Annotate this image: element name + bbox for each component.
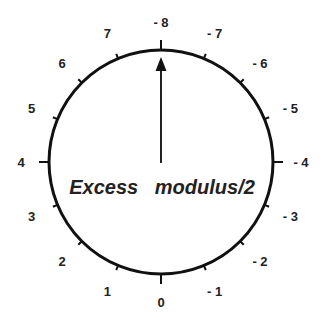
tick-label: 0	[157, 295, 164, 310]
tick-label: 3	[28, 209, 35, 224]
tick-label: - 7	[207, 26, 222, 41]
tick-label-top: - 8	[153, 15, 168, 30]
tick-mark	[240, 79, 244, 83]
tick-label: 2	[58, 254, 65, 269]
tick-mark	[78, 79, 82, 83]
tick-label: 5	[28, 101, 35, 116]
tick-label: - 5	[283, 101, 298, 116]
tick-label: 6	[58, 56, 65, 71]
tick-label: - 4	[293, 155, 309, 170]
dial-caption: Excess modulus/2	[69, 176, 255, 198]
tick-label: 1	[104, 284, 111, 299]
excess-modulus-dial: 01234567- 8- 1- 2- 3- 4- 5- 6- 7 Excess …	[0, 0, 322, 327]
tick-mark	[240, 241, 244, 245]
pointer-arrow	[156, 57, 167, 163]
tick-label: 7	[104, 26, 111, 41]
tick-label: - 1	[207, 284, 222, 299]
tick-label: - 6	[252, 56, 267, 71]
tick-label: - 3	[283, 209, 298, 224]
tick-label: - 2	[252, 254, 267, 269]
pointer-arrowhead-icon	[156, 57, 167, 71]
tick-label: 4	[17, 155, 25, 170]
tick-mark	[78, 241, 82, 245]
tick-labels: 01234567- 8- 1- 2- 3- 4- 5- 6- 7	[17, 15, 309, 310]
